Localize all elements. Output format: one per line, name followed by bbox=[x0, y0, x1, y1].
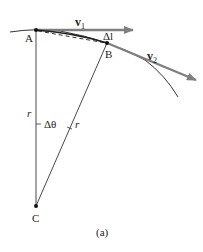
r-right-label: r bbox=[75, 118, 80, 130]
point-c bbox=[34, 204, 38, 208]
r-left-label: r bbox=[27, 107, 32, 119]
point-a bbox=[34, 28, 38, 32]
point-b-label: B bbox=[105, 48, 112, 60]
v2-label: v2 bbox=[147, 49, 157, 65]
chord-dashed-line bbox=[38, 31, 106, 43]
circular-motion-diagram: A B C v1 v2 Δl Δθ r r (a) bbox=[0, 0, 203, 252]
delta-l-label: Δl bbox=[103, 30, 113, 42]
figure-caption: (a) bbox=[96, 226, 109, 239]
delta-theta-label: Δθ bbox=[44, 118, 56, 130]
point-c-label: C bbox=[32, 212, 39, 224]
v1-label: v1 bbox=[75, 15, 85, 31]
point-a-label: A bbox=[25, 32, 33, 44]
